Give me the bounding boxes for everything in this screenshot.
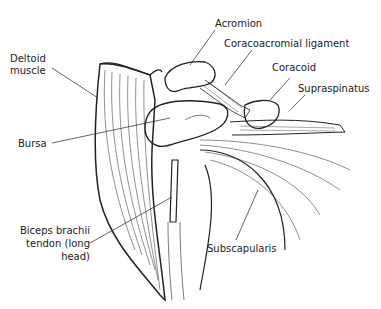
label-biceps-line1: Biceps brachii (10, 225, 90, 236)
label-bursa: Bursa (18, 138, 47, 149)
acromion (165, 62, 215, 92)
leader-deltoid (52, 68, 98, 98)
label-acromion: Acromion (215, 18, 262, 29)
shoulder-diagram: Acromion Coracoacromial ligament Coracoi… (0, 0, 381, 309)
biceps-tendon (170, 160, 178, 222)
label-biceps-line3: head) (10, 251, 90, 262)
label-coracoacromial-ligament: Coracoacromial ligament (224, 38, 349, 49)
label-deltoid-line2: muscle (10, 65, 46, 76)
leader-acromion (190, 30, 215, 65)
coracoacromial-ligament (200, 80, 250, 118)
leader-coracoid (270, 78, 290, 100)
coracoid (244, 100, 279, 128)
subscapularis (200, 150, 285, 250)
label-biceps-line2: tendon (long (10, 238, 90, 249)
leader-biceps (90, 197, 172, 243)
leader-coracoacromial (225, 50, 252, 85)
deltoid-muscle (95, 64, 165, 300)
label-deltoid-line1: Deltoid (10, 53, 46, 64)
bursa (145, 101, 228, 147)
label-subscapularis: Subscapularis (207, 243, 277, 254)
label-supraspinatus: Supraspinatus (298, 83, 370, 94)
label-coracoid: Coracoid (272, 62, 316, 73)
leader-supraspinatus (290, 95, 305, 110)
leader-subscapularis (236, 190, 258, 240)
